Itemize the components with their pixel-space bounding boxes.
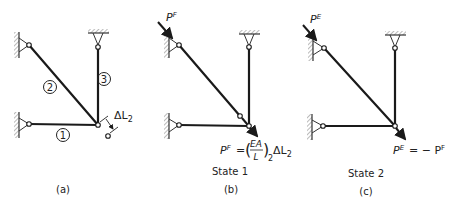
pin-support-top-right	[88, 29, 109, 45]
member-1	[179, 125, 249, 126]
caption-a: (a)	[56, 184, 70, 195]
panel-b: PF PF = ( EA L ) 2 ΔL2 State 1 (b)	[158, 11, 292, 195]
node-center	[393, 124, 398, 129]
node-top-right	[393, 46, 398, 51]
node-top-right	[96, 45, 101, 50]
caption-b: (b)	[224, 184, 238, 195]
pin-support-top-right	[239, 30, 260, 46]
state-label-2: State 2	[348, 168, 384, 179]
panel-c: PE PE = − PF State 2 (c)	[303, 13, 445, 197]
state-label-1: State 1	[212, 166, 248, 177]
equation-state-2: PE = − PF	[393, 144, 445, 157]
node-top-left	[177, 43, 182, 48]
force-label-top: PF	[166, 11, 178, 24]
delta-l-label: ΔL2	[114, 109, 133, 124]
caption-c: (c)	[359, 186, 372, 197]
node-top-right	[247, 45, 252, 50]
member-label-1: 1	[60, 130, 66, 141]
node-center	[96, 123, 101, 128]
svg-text:ΔL2: ΔL2	[273, 144, 292, 159]
force-arrow-bottom	[396, 128, 405, 139]
svg-text:EA: EA	[250, 139, 262, 149]
force-label-top: PE	[310, 13, 322, 26]
member-label-2: 2	[47, 82, 53, 93]
node-displaced	[106, 134, 111, 139]
node-bottom-left	[321, 124, 326, 129]
node-top-left	[27, 43, 32, 48]
pin-support-top-right	[385, 31, 406, 47]
equation-state-1: PF = ( EA L ) 2 ΔL2	[220, 139, 292, 163]
member-2	[29, 45, 98, 125]
member-label-3: 3	[101, 74, 107, 85]
node-bottom-left	[27, 122, 32, 127]
panel-a: 2 1 3 ΔL2 (a)	[14, 29, 133, 195]
svg-text:PF: PF	[220, 144, 232, 157]
node-member2-end	[238, 114, 243, 119]
member-2	[179, 45, 240, 116]
node-center	[247, 124, 252, 129]
truss-diagram: 2 1 3 ΔL2 (a)	[0, 0, 450, 210]
node-top-left	[322, 46, 327, 51]
member-1	[29, 124, 98, 125]
member-2	[324, 48, 395, 126]
svg-text:= − PF: = − PF	[409, 144, 445, 157]
svg-text:=: =	[236, 144, 245, 157]
node-bottom-left	[177, 123, 182, 128]
svg-text:L: L	[253, 152, 258, 162]
svg-text:PE: PE	[393, 144, 405, 157]
